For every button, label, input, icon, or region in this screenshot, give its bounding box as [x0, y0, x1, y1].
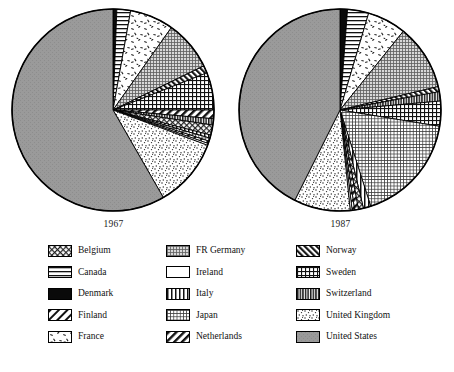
legend-swatch-japan	[166, 309, 190, 321]
legend-swatch-fr-germany	[166, 245, 190, 257]
legend-item-norway[interactable]: Norway	[296, 245, 420, 257]
legend-item-canada[interactable]: Canada	[48, 266, 166, 278]
pie-charts-svg	[0, 0, 454, 232]
legend-label: Italy	[196, 289, 213, 299]
legend-item-japan[interactable]: Japan	[166, 309, 296, 321]
legend-label: Denmark	[78, 289, 113, 299]
legend-label: FR Germany	[196, 246, 245, 256]
legend-swatch-netherlands	[166, 331, 190, 343]
legend-item-netherlands[interactable]: Netherlands	[166, 331, 296, 343]
legend-swatch-canada	[48, 266, 72, 278]
legend-label: United Kingdom	[326, 311, 390, 321]
legend-label: United States	[326, 332, 377, 342]
legend-label: Ireland	[196, 268, 223, 278]
pie-1987	[239, 9, 441, 211]
year-label-1967: 1967	[0, 219, 227, 229]
year-label-1987: 1987	[227, 219, 454, 229]
legend-item-france[interactable]: France	[48, 331, 166, 343]
legend-swatch-switzerland	[296, 288, 320, 300]
legend-label: Norway	[326, 246, 357, 256]
legend-item-united-states[interactable]: United States	[296, 331, 420, 343]
legend-item-italy[interactable]: Italy	[166, 288, 296, 300]
legend-item-fr-germany[interactable]: FR Germany	[166, 245, 296, 257]
legend-label: Canada	[78, 268, 107, 278]
pie-1967	[12, 9, 214, 211]
legend-label: France	[78, 332, 104, 342]
legend-swatch-belgium	[48, 245, 72, 257]
legend-swatch-norway	[296, 245, 320, 257]
legend-swatch-finland	[48, 309, 72, 321]
legend-swatch-ireland	[166, 266, 190, 278]
legend-item-ireland[interactable]: Ireland	[166, 266, 296, 278]
figure-root: 1967 1987 BelgiumFR GermanyNorwayCanadaI…	[0, 0, 454, 372]
legend-label: Switzerland	[326, 289, 371, 299]
legend-swatch-italy	[166, 288, 190, 300]
legend-swatch-denmark	[48, 288, 72, 300]
legend-swatch-sweden	[296, 266, 320, 278]
legend-item-belgium[interactable]: Belgium	[48, 245, 166, 257]
legend-label: Sweden	[326, 268, 356, 278]
legend-item-finland[interactable]: Finland	[48, 309, 166, 321]
legend-label: Netherlands	[196, 332, 242, 342]
legend-label: Japan	[196, 311, 218, 321]
legend-label: Finland	[78, 311, 107, 321]
legend-item-denmark[interactable]: Denmark	[48, 288, 166, 300]
legend-label: Belgium	[78, 246, 111, 256]
legend-item-united-kingdom[interactable]: United Kingdom	[296, 309, 420, 321]
legend-item-switzerland[interactable]: Switzerland	[296, 288, 420, 300]
legend-item-sweden[interactable]: Sweden	[296, 266, 420, 278]
legend-swatch-france	[48, 331, 72, 343]
legend: BelgiumFR GermanyNorwayCanadaIrelandSwed…	[48, 240, 420, 350]
legend-swatch-united-kingdom	[296, 309, 320, 321]
legend-swatch-united-states	[296, 331, 320, 343]
